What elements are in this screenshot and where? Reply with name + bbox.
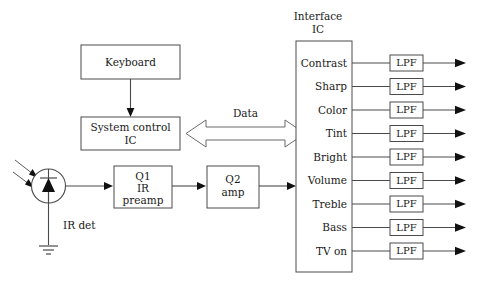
interface-ic-row-label-0: Contrast: [301, 57, 348, 69]
keyboard-label: Keyboard: [105, 56, 156, 68]
arrowhead-q2-to-interface-ic: [287, 182, 296, 190]
diagram-canvas: Keyboard System control IC Data IR det: [0, 0, 477, 285]
lpf-label-1: LPF: [396, 81, 416, 92]
q2-label-line1: Q2: [225, 173, 240, 185]
arrowhead-lpf-output-5: [455, 176, 466, 185]
lpf-label-7: LPF: [396, 222, 416, 233]
interface-ic-row-label-8: TV on: [316, 245, 347, 257]
block-diagram: Keyboard System control IC Data IR det: [0, 0, 477, 285]
interface-ic-row-label-6: Treble: [312, 198, 347, 210]
arrowhead-q1-to-q2: [197, 182, 206, 190]
arrowhead-lpf-output-3: [455, 129, 466, 138]
lpf-label-2: LPF: [396, 104, 416, 115]
q2-label-line2: amp: [222, 186, 245, 198]
ir-detector-label: IR det: [63, 219, 96, 231]
arrowhead-lpf-output-1: [455, 82, 466, 91]
interface-ic-title-line2: IC: [312, 23, 324, 35]
system-control-ic-label-line1: System control: [90, 121, 171, 133]
interface-ic-row-label-1: Sharp: [315, 80, 347, 92]
output-rows-group: ContrastLPFSharpLPFColorLPFTintLPFBright…: [301, 55, 466, 259]
arrowhead-lpf-output-2: [455, 106, 466, 115]
arrowhead-lpf-output-0: [455, 59, 466, 68]
light-ray-1-line: [15, 160, 33, 174]
arrowhead-lpf-output-4: [455, 153, 466, 162]
lpf-label-8: LPF: [396, 245, 416, 256]
lpf-label-6: LPF: [396, 198, 416, 209]
arrowhead-keyboard-to-system-control: [127, 108, 135, 117]
data-bus-label: Data: [233, 107, 258, 119]
q1-label-line2: IR: [137, 182, 150, 194]
arrowhead-detector-to-q1: [104, 182, 113, 190]
arrowhead-lpf-output-8: [455, 247, 466, 256]
interface-ic-row-label-2: Color: [318, 104, 348, 116]
lpf-label-5: LPF: [396, 175, 416, 186]
arrowhead-lpf-output-6: [455, 200, 466, 209]
q1-label-line3: preamp: [123, 194, 164, 206]
interface-ic-row-label-4: Bright: [313, 151, 348, 163]
interface-ic-row-label-3: Tint: [326, 127, 348, 139]
interface-ic-row-label-5: Volume: [307, 174, 347, 186]
interface-ic-title-line1: Interface: [294, 10, 343, 22]
interface-ic-row-label-7: Bass: [322, 221, 347, 233]
data-bus-arrow: [186, 120, 305, 147]
q1-label-line1: Q1: [135, 170, 150, 182]
system-control-ic-label-line2: IC: [124, 134, 136, 146]
arrowhead-lpf-output-7: [455, 223, 466, 232]
lpf-label-3: LPF: [396, 128, 416, 139]
lpf-label-4: LPF: [396, 151, 416, 162]
lpf-label-0: LPF: [396, 57, 416, 68]
